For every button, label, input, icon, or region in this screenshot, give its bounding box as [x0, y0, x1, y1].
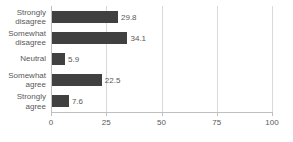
x-tick-label: 100: [260, 118, 284, 127]
bar-somewhat-agree: [52, 74, 102, 86]
bar-somewhat-disagree: [52, 32, 127, 44]
x-tick-label: 25: [94, 118, 118, 127]
category-label-line: Somewhat: [0, 29, 46, 38]
bar-row: Somewhat agree 22.5: [0, 70, 293, 91]
x-tick-label: 50: [150, 118, 174, 127]
bar-row: Strongly disagree 29.8: [0, 6, 293, 27]
category-label-line: agree: [0, 80, 46, 89]
bar-value-label: 22.5: [105, 76, 121, 85]
x-tick-mark-75: [217, 112, 218, 116]
category-label: Strongly agree: [0, 92, 46, 110]
bar-row: Strongly agree 7.6: [0, 91, 293, 112]
category-label-line: disagree: [0, 17, 46, 26]
x-tick-label: 0: [39, 118, 63, 127]
category-label-line: Somewhat: [0, 71, 46, 80]
category-label: Strongly disagree: [0, 7, 46, 25]
bar-value-label: 5.9: [68, 54, 79, 63]
x-tick-label: 75: [205, 118, 229, 127]
bar-value-label: 34.1: [131, 33, 147, 42]
bar-chart: Strongly disagree 29.8 Somewhat disagree…: [0, 0, 293, 142]
category-label-line: disagree: [0, 38, 46, 47]
bar-strongly-agree: [52, 95, 69, 107]
bar-value-label: 29.8: [121, 12, 137, 21]
bar-value-label: 7.6: [72, 97, 83, 106]
x-tick-mark-100: [272, 112, 273, 116]
category-label-line: Strongly: [0, 92, 46, 101]
bar-neutral: [52, 53, 65, 65]
category-label-line: Neutral: [0, 54, 46, 63]
category-label: Neutral: [0, 54, 46, 63]
x-tick-mark-0: [51, 112, 52, 116]
category-label-line: agree: [0, 101, 46, 110]
bar-row: Somewhat disagree 34.1: [0, 27, 293, 48]
category-label: Somewhat disagree: [0, 29, 46, 47]
x-tick-mark-50: [162, 112, 163, 116]
bar-strongly-disagree: [52, 11, 118, 23]
bar-row: Neutral 5.9: [0, 48, 293, 69]
x-tick-mark-25: [106, 112, 107, 116]
category-label: Somewhat agree: [0, 71, 46, 89]
category-label-line: Strongly: [0, 7, 46, 16]
